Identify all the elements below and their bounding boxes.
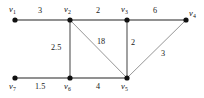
- vertex-label-v3: v3: [121, 5, 128, 14]
- vertex-label-v2: v2: [64, 5, 71, 14]
- vertex-label-v6: v6: [64, 82, 71, 91]
- vertex-label-subscript: 7: [13, 86, 16, 92]
- vertex-label-subscript: 3: [125, 9, 128, 15]
- graph-vertex-node: [67, 75, 72, 80]
- vertex-label-v7: v7: [9, 82, 16, 91]
- graph-vertex-node: [12, 75, 17, 80]
- graph-vertex-node: [183, 17, 188, 22]
- graph-vertex-node: [124, 75, 129, 80]
- graph-edge: [70, 20, 127, 78]
- vertex-label-v4: v4: [189, 9, 196, 18]
- graph-edge: [127, 20, 186, 78]
- edge-weight-label: 4: [96, 83, 100, 91]
- vertex-label-subscript: 2: [68, 9, 71, 15]
- edge-weight-label: 18: [97, 38, 105, 46]
- graph-vertex-node: [12, 17, 17, 22]
- edge-weight-label: 3: [38, 7, 42, 15]
- vertex-label-v5: v5: [121, 82, 128, 91]
- graph-canvas: [0, 0, 204, 98]
- graph-vertex-node: [124, 17, 129, 22]
- edge-weight-label: 2: [131, 39, 135, 47]
- weighted-graph-figure: v1v2v3v4v5v6v7 3262.518231.54: [0, 0, 204, 98]
- vertex-label-subscript: 1: [13, 9, 16, 15]
- vertex-label-subscript: 5: [125, 86, 128, 92]
- edge-weight-label: 3: [161, 50, 165, 58]
- edge-weight-label: 1.5: [35, 83, 45, 91]
- edge-weight-label: 2: [96, 7, 100, 15]
- edge-weight-label: 6: [153, 7, 157, 15]
- vertex-label-v1: v1: [9, 5, 16, 14]
- vertex-label-subscript: 4: [193, 13, 196, 19]
- vertex-label-subscript: 6: [68, 86, 71, 92]
- edge-weight-label: 2.5: [51, 44, 61, 52]
- graph-vertex-node: [67, 17, 72, 22]
